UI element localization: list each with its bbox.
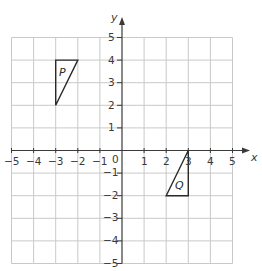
y-tick-label: 1 xyxy=(108,122,115,133)
grid-svg xyxy=(0,0,262,271)
y-axis-label: y xyxy=(111,12,118,23)
y-tick-label: 4 xyxy=(108,55,115,66)
triangle-p-label: P xyxy=(59,67,66,78)
x-tick-label: 1 xyxy=(141,156,148,167)
x-tick-label: −2 xyxy=(70,156,85,167)
y-tick-label: −2 xyxy=(103,190,118,201)
y-axis-arrow-icon xyxy=(119,17,125,25)
x-axis-arrow-icon xyxy=(242,148,250,154)
y-tick-label: −5 xyxy=(103,258,118,269)
triangle-q-label: Q xyxy=(175,180,184,191)
x-axis-label: x xyxy=(251,152,258,163)
x-tick-label: −4 xyxy=(26,156,41,167)
y-tick-label: 3 xyxy=(108,77,115,88)
x-tick-label: 4 xyxy=(207,156,214,167)
x-tick-label: 2 xyxy=(163,156,170,167)
axes xyxy=(12,17,251,264)
x-tick-label: −5 xyxy=(4,156,19,167)
y-tick-label: 2 xyxy=(108,100,115,111)
y-tick-label: −4 xyxy=(103,235,118,246)
x-tick-label: −3 xyxy=(48,156,63,167)
y-tick-label: 5 xyxy=(108,32,115,43)
x-tick-label: −1 xyxy=(92,156,107,167)
x-tick-label: 3 xyxy=(185,156,192,167)
x-tick-label: 5 xyxy=(229,156,236,167)
coordinate-grid-diagram: y x 0 −5 −4 −3 −2 −1 1 2 3 4 5 5 4 3 2 1… xyxy=(0,0,262,271)
y-tick-label: −3 xyxy=(103,212,118,223)
y-tick-label: −1 xyxy=(103,167,118,178)
origin-label: 0 xyxy=(112,154,119,165)
